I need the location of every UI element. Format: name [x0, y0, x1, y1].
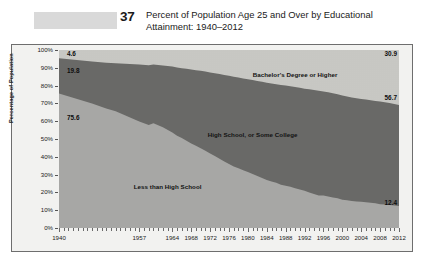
value-annotation: 56.7	[385, 94, 397, 101]
x-tick-mark	[399, 228, 400, 232]
x-tick-mark	[295, 228, 296, 231]
x-tick-mark	[366, 228, 367, 231]
y-tick-label: 0%	[12, 224, 53, 231]
x-tick-mark	[205, 228, 206, 231]
y-tick-mark	[55, 139, 58, 140]
x-tick-mark	[153, 228, 154, 231]
x-tick-mark	[111, 228, 112, 231]
y-tick-label: 30%	[12, 171, 53, 178]
y-tick-mark	[55, 86, 58, 87]
x-tick-mark	[64, 228, 65, 231]
x-tick-mark	[286, 228, 287, 232]
x-tick-mark	[248, 228, 249, 232]
y-tick-mark	[55, 192, 58, 193]
x-tick-mark	[68, 228, 69, 231]
y-tick-label: 100%	[12, 46, 53, 53]
x-tick-label: 1957	[132, 234, 146, 241]
y-tick-label: 70%	[12, 99, 53, 106]
x-tick-mark	[328, 228, 329, 231]
x-tick-label: 1972	[203, 234, 217, 241]
value-annotation: 75.6	[67, 114, 79, 121]
x-tick-label: 1976	[222, 234, 236, 241]
series-label: Less than High School	[134, 183, 202, 190]
x-tick-mark	[394, 228, 395, 231]
figure-number: 37	[120, 9, 135, 24]
series-label: High School, or Some College	[208, 131, 298, 138]
x-tick-label: 2000	[336, 234, 350, 241]
x-tick-mark	[333, 228, 334, 231]
x-tick-mark	[253, 228, 254, 231]
title-line-1: Percent of Population Age 25 and Over by…	[146, 9, 373, 20]
x-tick-label: 1980	[241, 234, 255, 241]
x-tick-mark	[234, 228, 235, 231]
x-tick-mark	[139, 228, 140, 232]
x-tick-mark	[87, 228, 88, 231]
x-tick-mark	[106, 228, 107, 231]
x-tick-mark	[120, 228, 121, 231]
y-tick-label: 60%	[12, 117, 53, 124]
x-tick-label: 1964	[166, 234, 180, 241]
chart-header: 37 Percent of Population Age 25 and Over…	[0, 0, 422, 44]
x-tick-mark	[224, 228, 225, 231]
x-tick-mark	[182, 228, 183, 231]
x-tick-mark	[163, 228, 164, 231]
x-tick-mark	[371, 228, 372, 231]
plot-area: Less than High SchoolHigh School, or Som…	[59, 50, 399, 228]
x-tick-mark	[390, 228, 391, 231]
x-tick-mark	[309, 228, 310, 231]
y-tick-mark	[55, 68, 58, 69]
x-tick-mark	[276, 228, 277, 231]
value-annotation: 19.8	[67, 67, 79, 74]
x-tick-mark	[385, 228, 386, 231]
x-tick-mark	[342, 228, 343, 232]
y-tick-mark	[55, 175, 58, 176]
x-tick-label: 2012	[392, 234, 406, 241]
x-tick-label: 1940	[52, 234, 66, 241]
x-tick-label: 1996	[317, 234, 331, 241]
x-tick-label: 1988	[279, 234, 293, 241]
x-tick-mark	[92, 228, 93, 231]
x-tick-mark	[338, 228, 339, 231]
y-tick-label: 20%	[12, 188, 53, 195]
x-tick-mark	[361, 228, 362, 232]
x-tick-mark	[357, 228, 358, 231]
x-tick-mark	[375, 228, 376, 231]
y-tick-mark	[55, 121, 58, 122]
x-tick-mark	[149, 228, 150, 231]
y-tick-label: 50%	[12, 135, 53, 142]
chart-frame: Percentage of Population 100%90%80%70%60…	[11, 44, 413, 252]
y-tick-mark	[55, 228, 58, 229]
x-tick-label: 2008	[373, 234, 387, 241]
x-tick-mark	[262, 228, 263, 231]
x-tick-label: 2004	[354, 234, 368, 241]
x-tick-mark	[347, 228, 348, 231]
y-tick-label: 80%	[12, 82, 53, 89]
y-tick-mark	[55, 157, 58, 158]
x-tick-mark	[83, 228, 84, 231]
x-tick-mark	[323, 228, 324, 232]
x-tick-mark	[97, 228, 98, 231]
x-tick-mark	[196, 228, 197, 231]
x-tick-mark	[215, 228, 216, 231]
x-tick-mark	[319, 228, 320, 231]
x-tick-mark	[191, 228, 192, 232]
x-tick-mark	[210, 228, 211, 232]
x-tick-mark	[314, 228, 315, 231]
x-tick-mark	[177, 228, 178, 231]
x-tick-mark	[130, 228, 131, 231]
y-tick-label: 40%	[12, 153, 53, 160]
x-tick-mark	[352, 228, 353, 231]
stacked-area-svg	[59, 50, 399, 228]
page-title: Percent of Population Age 25 and Over by…	[146, 9, 408, 33]
x-tick-mark	[144, 228, 145, 231]
x-tick-mark	[229, 228, 230, 232]
y-tick-mark	[55, 210, 58, 211]
chart-page: 37 Percent of Population Age 25 and Over…	[0, 0, 422, 262]
x-tick-mark	[78, 228, 79, 231]
x-tick-label: 1992	[298, 234, 312, 241]
x-tick-mark	[272, 228, 273, 231]
x-tick-mark	[116, 228, 117, 231]
x-tick-mark	[73, 228, 74, 231]
y-tick-label: 10%	[12, 206, 53, 213]
x-tick-mark	[220, 228, 221, 231]
